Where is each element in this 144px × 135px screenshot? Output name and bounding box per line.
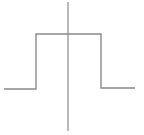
pulse-waveform — [4, 34, 135, 89]
pulse-diagram — [0, 0, 144, 135]
